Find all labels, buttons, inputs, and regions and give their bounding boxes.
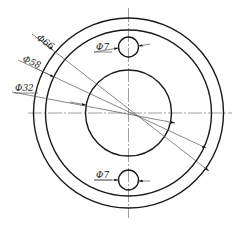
label-hole-bottom: Φ7 [96, 170, 109, 180]
label-d66: Φ66 [35, 32, 56, 51]
leader-d66 [32, 34, 209, 171]
leader-d32 [12, 92, 175, 123]
label-d32: Φ32 [15, 83, 34, 93]
technical-drawing: Φ66 Φ58 Φ32 Φ7 Φ7 [0, 0, 237, 226]
label-d58: Φ58 [21, 54, 43, 71]
leader-hole-top-out [139, 44, 151, 46]
label-hole-top: Φ7 [96, 42, 109, 52]
centerlines [28, 8, 232, 218]
